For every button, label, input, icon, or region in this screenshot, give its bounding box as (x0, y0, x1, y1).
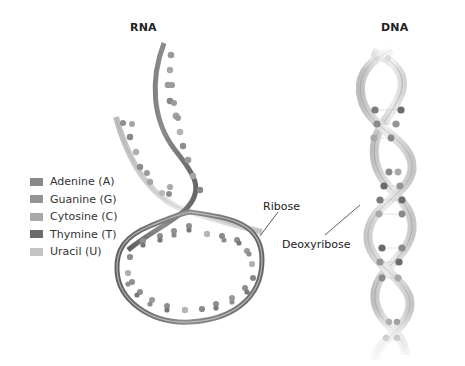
thymine-swatch (30, 230, 43, 238)
legend-item-cytosine: Cytosine (C) (30, 208, 118, 226)
legend-item-uracil: Uracil (U) (30, 243, 118, 261)
ribose-pointer-line (260, 212, 278, 236)
guanine-swatch (30, 195, 43, 203)
cytosine-swatch (30, 213, 43, 221)
rna-bases-top (165, 52, 204, 194)
dna-title: DNA (381, 21, 408, 34)
legend-label: Cytosine (C) (50, 210, 118, 223)
legend-item-guanine: Guanine (G) (30, 191, 118, 209)
ribose-label: Ribose (263, 200, 300, 213)
deoxyribose-pointer-line (325, 205, 360, 235)
rna-structure (116, 43, 278, 322)
legend-label: Adenine (A) (50, 175, 114, 188)
legend-label: Thymine (T) (50, 228, 117, 241)
legend-label: Guanine (G) (50, 193, 117, 206)
legend-item-adenine: Adenine (A) (30, 173, 118, 191)
deoxyribose-label: Deoxyribose (282, 238, 350, 251)
legend-label: Uracil (U) (50, 245, 102, 258)
rna-title: RNA (130, 21, 157, 34)
rna-backbone-light-strand (116, 117, 262, 232)
adenine-swatch (30, 178, 43, 186)
nucleotide-legend: Adenine (A) Guanine (G) Cytosine (C) Thy… (30, 173, 118, 261)
dna-structure (325, 40, 430, 366)
legend-item-thymine: Thymine (T) (30, 226, 118, 244)
uracil-swatch (30, 248, 43, 256)
